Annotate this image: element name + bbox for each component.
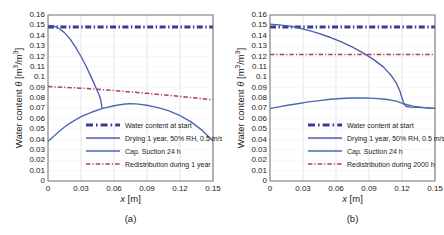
chart-panel-a: Water content θ [m3/m3]x [m](a)00.010.02… bbox=[0, 0, 222, 235]
legend-label: Cap. Suction 24 h bbox=[347, 148, 403, 156]
legend-label: Drying 1 year, 50% RH, 0.5 m/s bbox=[347, 135, 444, 143]
legend-label: Cap. Suction 24 h bbox=[125, 148, 181, 156]
figure-root: Water content θ [m3/m3]x [m](a)00.010.02… bbox=[0, 0, 444, 235]
plot-area-a: Water content at startDrying 1 year, 50%… bbox=[0, 0, 222, 235]
legend-label: Water content at start bbox=[125, 122, 192, 129]
legend-label: Redistribution during 2000 h bbox=[347, 161, 435, 169]
chart-panel-b: Water content θ [m3/m3]x [m](b)00.010.02… bbox=[222, 0, 444, 235]
legend-label: Redistribution during 1 year bbox=[125, 161, 211, 169]
legend-label: Water content at start bbox=[347, 122, 414, 129]
plot-area-b: Water content at startDrying 1 year, 50%… bbox=[222, 0, 444, 235]
legend-label: Drying 1 year, 50% RH, 0.5 m/s bbox=[125, 135, 222, 143]
